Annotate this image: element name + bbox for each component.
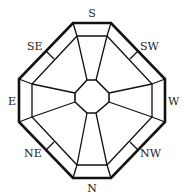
label-right: W bbox=[168, 95, 180, 108]
label-bottom-right: NW bbox=[140, 147, 162, 160]
label-bottom-left: NE bbox=[24, 147, 42, 160]
center-octagon bbox=[75, 80, 109, 113]
direction-labels: S SW W NW N NE E SE bbox=[8, 7, 180, 195]
octagon-diagram: S SW W NW N NE E SE bbox=[0, 0, 184, 195]
label-top-right: SW bbox=[140, 40, 160, 53]
label-left: E bbox=[8, 95, 16, 108]
label-top-left: SE bbox=[27, 40, 43, 53]
label-bottom: N bbox=[87, 182, 97, 195]
label-top: S bbox=[88, 7, 96, 20]
